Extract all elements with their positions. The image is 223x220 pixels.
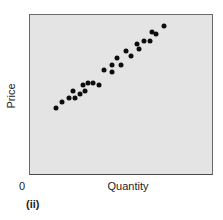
data-point — [70, 89, 75, 94]
data-point — [110, 63, 115, 68]
data-point — [119, 63, 124, 68]
data-point — [72, 95, 77, 100]
data-point — [161, 23, 166, 28]
data-point — [141, 38, 146, 43]
data-point — [59, 99, 64, 104]
data-point — [114, 56, 119, 61]
y-axis-label: Price — [5, 83, 17, 108]
data-point — [110, 70, 115, 75]
data-point — [102, 68, 107, 73]
data-point — [147, 38, 152, 43]
data-point — [153, 31, 158, 36]
data-point — [66, 95, 71, 100]
x-axis-label: Quantity — [108, 180, 149, 192]
data-point — [53, 105, 58, 110]
plot-area — [29, 14, 213, 175]
data-point — [123, 48, 128, 53]
data-point — [97, 83, 102, 88]
origin-label: 0 — [19, 180, 25, 192]
data-point — [128, 53, 133, 58]
data-point — [91, 81, 96, 86]
data-point — [136, 46, 141, 51]
data-point — [77, 92, 82, 97]
data-point — [83, 89, 88, 94]
panel-label: (ii) — [26, 198, 39, 210]
